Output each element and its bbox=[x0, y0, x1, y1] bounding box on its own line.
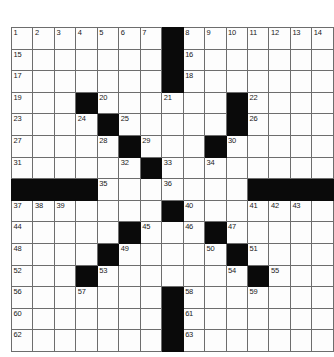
crossword-cell[interactable]: 9 bbox=[205, 28, 226, 50]
crossword-cell[interactable] bbox=[290, 92, 311, 114]
crossword-cell[interactable] bbox=[247, 222, 268, 244]
crossword-cell[interactable]: 12 bbox=[269, 28, 290, 50]
crossword-cell[interactable] bbox=[97, 71, 118, 93]
crossword-cell[interactable] bbox=[33, 49, 54, 71]
crossword-cell[interactable] bbox=[205, 265, 226, 287]
crossword-cell[interactable] bbox=[205, 330, 226, 352]
crossword-cell[interactable] bbox=[312, 114, 334, 136]
crossword-cell[interactable] bbox=[269, 114, 290, 136]
crossword-cell[interactable] bbox=[205, 200, 226, 222]
crossword-cell[interactable] bbox=[183, 243, 204, 265]
crossword-cell[interactable] bbox=[183, 114, 204, 136]
crossword-cell[interactable]: 35 bbox=[97, 179, 118, 201]
crossword-cell[interactable] bbox=[312, 287, 334, 309]
crossword-cell[interactable] bbox=[140, 200, 161, 222]
crossword-cell[interactable]: 24 bbox=[76, 114, 97, 136]
crossword-cell[interactable] bbox=[226, 49, 247, 71]
crossword-cell[interactable] bbox=[312, 222, 334, 244]
crossword-cell[interactable]: 3 bbox=[54, 28, 75, 50]
crossword-cell[interactable] bbox=[269, 222, 290, 244]
crossword-cell[interactable] bbox=[312, 71, 334, 93]
crossword-cell[interactable]: 17 bbox=[12, 71, 33, 93]
crossword-cell[interactable] bbox=[247, 49, 268, 71]
crossword-cell[interactable]: 55 bbox=[269, 265, 290, 287]
crossword-cell[interactable] bbox=[119, 49, 140, 71]
crossword-cell[interactable] bbox=[183, 157, 204, 179]
crossword-cell[interactable] bbox=[290, 287, 311, 309]
crossword-cell[interactable]: 61 bbox=[183, 308, 204, 330]
crossword-cell[interactable] bbox=[119, 200, 140, 222]
crossword-cell[interactable]: 13 bbox=[290, 28, 311, 50]
crossword-cell[interactable]: 22 bbox=[247, 92, 268, 114]
crossword-cell[interactable] bbox=[162, 265, 183, 287]
crossword-cell[interactable] bbox=[290, 243, 311, 265]
crossword-cell[interactable]: 46 bbox=[183, 222, 204, 244]
crossword-cell[interactable] bbox=[205, 71, 226, 93]
crossword-cell[interactable]: 15 bbox=[12, 49, 33, 71]
crossword-cell[interactable]: 42 bbox=[269, 200, 290, 222]
crossword-cell[interactable] bbox=[76, 49, 97, 71]
crossword-cell[interactable] bbox=[97, 157, 118, 179]
crossword-cell[interactable] bbox=[140, 49, 161, 71]
crossword-cell[interactable]: 43 bbox=[290, 200, 311, 222]
crossword-cell[interactable] bbox=[140, 114, 161, 136]
crossword-cell[interactable] bbox=[54, 157, 75, 179]
crossword-cell[interactable] bbox=[97, 308, 118, 330]
crossword-cell[interactable] bbox=[119, 179, 140, 201]
crossword-cell[interactable] bbox=[269, 92, 290, 114]
crossword-cell[interactable]: 1 bbox=[12, 28, 33, 50]
crossword-cell[interactable] bbox=[269, 135, 290, 157]
crossword-cell[interactable] bbox=[119, 92, 140, 114]
crossword-cell[interactable] bbox=[54, 49, 75, 71]
crossword-cell[interactable] bbox=[33, 287, 54, 309]
crossword-cell[interactable]: 39 bbox=[54, 200, 75, 222]
crossword-cell[interactable] bbox=[76, 308, 97, 330]
crossword-cell[interactable]: 19 bbox=[12, 92, 33, 114]
crossword-cell[interactable] bbox=[54, 114, 75, 136]
crossword-cell[interactable]: 29 bbox=[140, 135, 161, 157]
crossword-cell[interactable] bbox=[183, 179, 204, 201]
crossword-cell[interactable] bbox=[33, 222, 54, 244]
crossword-cell[interactable] bbox=[269, 287, 290, 309]
crossword-cell[interactable] bbox=[33, 114, 54, 136]
crossword-cell[interactable] bbox=[312, 49, 334, 71]
crossword-cell[interactable]: 8 bbox=[183, 28, 204, 50]
crossword-cell[interactable] bbox=[140, 92, 161, 114]
crossword-cell[interactable] bbox=[183, 135, 204, 157]
crossword-cell[interactable]: 62 bbox=[12, 330, 33, 352]
crossword-cell[interactable] bbox=[97, 330, 118, 352]
crossword-cell[interactable] bbox=[33, 243, 54, 265]
crossword-cell[interactable] bbox=[97, 287, 118, 309]
crossword-cell[interactable] bbox=[140, 265, 161, 287]
crossword-cell[interactable]: 38 bbox=[33, 200, 54, 222]
crossword-cell[interactable] bbox=[76, 157, 97, 179]
crossword-cell[interactable]: 36 bbox=[162, 179, 183, 201]
crossword-cell[interactable]: 5 bbox=[97, 28, 118, 50]
crossword-cell[interactable]: 28 bbox=[97, 135, 118, 157]
crossword-cell[interactable] bbox=[312, 200, 334, 222]
crossword-cell[interactable]: 47 bbox=[226, 222, 247, 244]
crossword-cell[interactable] bbox=[54, 92, 75, 114]
crossword-cell[interactable] bbox=[33, 308, 54, 330]
crossword-cell[interactable]: 45 bbox=[140, 222, 161, 244]
crossword-cell[interactable] bbox=[205, 287, 226, 309]
crossword-cell[interactable] bbox=[269, 243, 290, 265]
crossword-cell[interactable] bbox=[226, 157, 247, 179]
crossword-cell[interactable] bbox=[162, 135, 183, 157]
crossword-cell[interactable]: 56 bbox=[12, 287, 33, 309]
crossword-cell[interactable] bbox=[290, 71, 311, 93]
crossword-cell[interactable] bbox=[162, 114, 183, 136]
crossword-cell[interactable]: 54 bbox=[226, 265, 247, 287]
crossword-cell[interactable]: 18 bbox=[183, 71, 204, 93]
crossword-cell[interactable] bbox=[205, 308, 226, 330]
crossword-cell[interactable]: 30 bbox=[226, 135, 247, 157]
crossword-cell[interactable] bbox=[247, 71, 268, 93]
crossword-cell[interactable]: 40 bbox=[183, 200, 204, 222]
crossword-cell[interactable] bbox=[290, 308, 311, 330]
crossword-cell[interactable] bbox=[312, 157, 334, 179]
crossword-cell[interactable] bbox=[290, 135, 311, 157]
crossword-cell[interactable] bbox=[312, 265, 334, 287]
crossword-cell[interactable]: 44 bbox=[12, 222, 33, 244]
crossword-cell[interactable] bbox=[312, 92, 334, 114]
crossword-cell[interactable]: 41 bbox=[247, 200, 268, 222]
